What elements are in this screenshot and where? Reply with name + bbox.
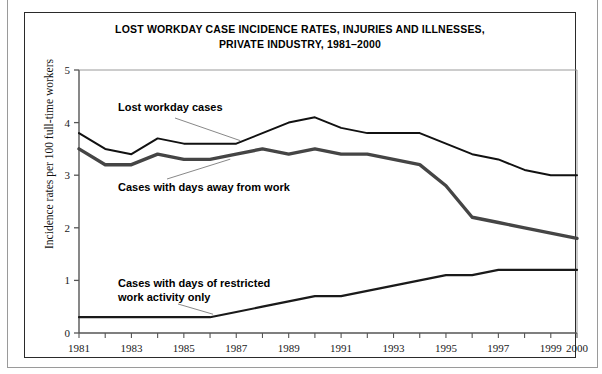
leader-cases-days-away [167,159,230,179]
x-tick-label: 1991 [330,342,352,354]
x-tick-label: 1983 [120,342,143,354]
y-tick-label: 2 [65,222,71,234]
annotation-cases-restricted: Cases with days of restricted work activ… [118,277,270,304]
y-tick-label: 1 [65,274,71,286]
annotation-lost-workday-cases: Lost workday cases [118,101,223,115]
plot-area: 0123451981198319851987198919911993199519… [0,0,602,374]
x-tick-label: 1993 [383,342,406,354]
x-tick-label: 1997 [487,342,510,354]
x-tick-label: 1995 [435,342,458,354]
y-tick-label: 3 [65,169,71,181]
leader-cases-restricted [178,304,213,314]
x-tick-label: 1987 [225,342,248,354]
x-tick-label: 1985 [173,342,196,354]
x-tick-label: 1999 [540,342,563,354]
x-tick-label: 1989 [278,342,301,354]
leader-lost-workday [175,118,240,141]
x-tick-label: 2000 [566,342,589,354]
y-tick-label: 0 [65,327,71,339]
y-tick-label: 5 [65,64,71,76]
annotation-cases-days-away: Cases with days away from work [118,181,290,195]
y-tick-label: 4 [65,117,71,129]
chart-figure: LOST WORKDAY CASE INCIDENCE RATES, INJUR… [0,0,602,374]
line-lost-workday-cases [79,117,577,175]
x-tick-label: 1981 [68,342,90,354]
